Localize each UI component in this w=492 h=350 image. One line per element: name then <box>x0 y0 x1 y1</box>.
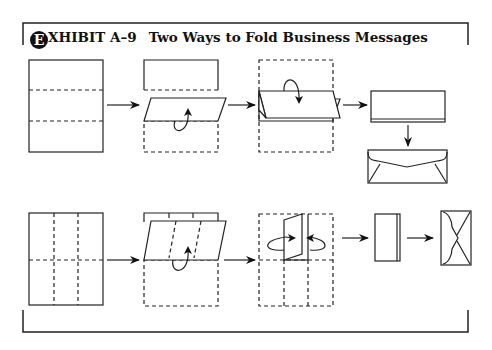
row1-sheet-thirds <box>29 60 103 152</box>
business-envelope-icon <box>368 150 447 183</box>
header-bracket <box>23 23 468 45</box>
footer-bracket <box>23 310 468 332</box>
row1-fold-top-down <box>259 60 340 152</box>
folding-diagram <box>0 0 492 350</box>
row2-fold-bottom-up <box>144 213 226 306</box>
row1-folded-letter <box>371 91 445 122</box>
row2-folded-narrow <box>375 214 400 261</box>
small-envelope-icon <box>441 211 471 265</box>
row2-sheet-grid <box>29 213 103 305</box>
row1-fold-bottom-up <box>144 60 226 152</box>
row2-fold-sides-in <box>259 214 333 306</box>
